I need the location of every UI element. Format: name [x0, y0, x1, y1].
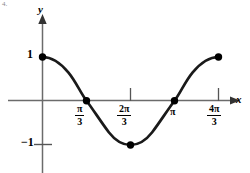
- x-tick-label-four-pi-over-3: 4π 3: [207, 104, 221, 127]
- fraction-numerator: π: [75, 104, 84, 116]
- graph-figure: 4. y x 1 −1 π 3: [0, 0, 250, 173]
- fraction-numerator: 4π: [207, 104, 221, 116]
- x-tick-label-two-pi-over-3: 2π 3: [117, 104, 131, 127]
- x-tick-label-pi-over-3: π 3: [75, 104, 84, 127]
- fraction-two-pi-over-3: 2π 3: [117, 104, 131, 127]
- x-axis-label: x: [236, 94, 242, 105]
- fraction-four-pi-over-3: 4π 3: [207, 104, 221, 127]
- fraction-denominator: 3: [75, 116, 84, 127]
- fraction-denominator: 3: [207, 116, 221, 127]
- fraction-denominator: 3: [117, 116, 131, 127]
- marked-point-four-pi-over-3-max: [215, 53, 222, 60]
- marked-point-origin-max: [39, 53, 46, 60]
- y-tick-label-negative-one: −1: [21, 136, 34, 148]
- y-axis-label: y: [38, 4, 43, 15]
- fraction-pi-over-3: π 3: [75, 104, 84, 127]
- fraction-numerator: 2π: [117, 104, 131, 116]
- y-tick-label-one: 1: [27, 48, 33, 60]
- marked-point-pi-zero: [171, 97, 178, 104]
- x-tick-label-pi: π: [170, 107, 175, 117]
- y-axis-arrowhead: [38, 14, 46, 24]
- coordinate-plane: [0, 0, 250, 173]
- marked-point-two-pi-over-3-min: [127, 141, 134, 148]
